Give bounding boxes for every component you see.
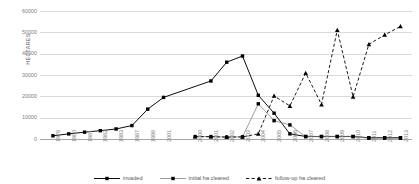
data-point-marker bbox=[241, 54, 244, 57]
data-point-marker bbox=[83, 130, 86, 133]
legend-item-follow-up-ha-cleared[interactable]: follow-up ha cleared bbox=[246, 175, 325, 182]
x-axis-tick-label: 2013 bbox=[403, 130, 409, 142]
x-axis-tick-label: 2001 bbox=[213, 130, 219, 142]
y-axis-tick-label: 10000 bbox=[3, 114, 37, 120]
data-point-marker bbox=[304, 135, 307, 138]
legend-item-initial-ha-cleared[interactable]: initial ha cleared bbox=[160, 175, 229, 182]
x-axis-tick-label: 2010 bbox=[355, 130, 361, 142]
x-axis-tick-label: 2004 bbox=[260, 130, 266, 142]
series-line bbox=[53, 56, 401, 138]
x-axis-tick-label: 2012 bbox=[387, 130, 393, 142]
chart-legend: invadedinitial ha clearedfollow-up ha cl… bbox=[0, 175, 419, 182]
data-point-marker bbox=[303, 71, 308, 75]
x-axis-tick-label: 2000 bbox=[197, 130, 203, 142]
data-point-marker bbox=[67, 132, 70, 135]
data-point-marker bbox=[335, 28, 340, 32]
chart-container: HECTARES 0100002000030000400005000060000… bbox=[0, 0, 419, 184]
y-axis-tick-label: 40000 bbox=[3, 50, 37, 56]
data-point-marker bbox=[257, 102, 260, 105]
data-point-marker bbox=[272, 94, 277, 98]
data-point-marker bbox=[319, 102, 324, 106]
y-axis-tick-label: 60000 bbox=[3, 8, 37, 14]
data-point-marker bbox=[272, 111, 275, 114]
x-axis-tick-label: 2008 bbox=[324, 130, 330, 142]
data-point-marker bbox=[399, 136, 402, 139]
data-point-marker bbox=[162, 96, 165, 99]
data-point-marker bbox=[351, 94, 356, 98]
y-axis-tick-label: 50000 bbox=[3, 29, 37, 35]
data-point-marker bbox=[105, 177, 108, 180]
data-point-marker bbox=[130, 124, 133, 127]
data-point-marker bbox=[398, 24, 403, 28]
x-axis-tick-label: 2003 bbox=[245, 130, 251, 142]
series-invaded bbox=[51, 54, 402, 139]
x-axis-tick-label: 1980 bbox=[71, 130, 77, 142]
legend-sample-initial-ha-cleared bbox=[160, 175, 186, 182]
legend-label: follow-up ha cleared bbox=[275, 175, 325, 182]
x-axis-tick-label: 2007 bbox=[308, 130, 314, 142]
x-axis-tick-label: 1983 bbox=[118, 130, 124, 142]
y-axis-tick-label: 0 bbox=[3, 136, 37, 142]
data-point-marker bbox=[146, 107, 149, 110]
x-axis-tick-label: 1978 bbox=[55, 130, 61, 142]
x-axis-tick-label: 1981 bbox=[87, 130, 93, 142]
legend-item-invaded[interactable]: invaded bbox=[94, 175, 143, 182]
x-axis-tick-label: 2011 bbox=[371, 130, 377, 142]
data-point-marker bbox=[288, 104, 293, 108]
x-axis-tick-label: 1987 bbox=[134, 130, 140, 142]
x-axis-tick-label: 1998 bbox=[150, 130, 156, 142]
x-axis-tick-label: 2009 bbox=[339, 130, 345, 142]
x-axis-tick-label: 2006 bbox=[292, 130, 298, 142]
y-axis-tick-label: 20000 bbox=[3, 93, 37, 99]
y-axis-tick-label: 30000 bbox=[3, 72, 37, 78]
data-point-marker bbox=[288, 123, 291, 126]
data-point-marker bbox=[367, 42, 372, 46]
x-axis-tick-label: 1982 bbox=[102, 130, 108, 142]
data-point-marker bbox=[225, 61, 228, 64]
legend-label: invaded bbox=[123, 175, 143, 182]
series-follow-up-ha-cleared bbox=[193, 24, 403, 139]
x-axis-tick-label: 2002 bbox=[229, 130, 235, 142]
legend-label: initial ha cleared bbox=[189, 175, 229, 182]
data-point-marker bbox=[320, 135, 323, 138]
legend-sample-follow-up-ha-cleared bbox=[246, 175, 272, 182]
data-point-marker bbox=[209, 79, 212, 82]
series-line bbox=[195, 26, 400, 137]
data-point-marker bbox=[382, 33, 387, 37]
plot-area bbox=[40, 11, 412, 139]
data-point-marker bbox=[272, 119, 275, 122]
series-layer bbox=[40, 11, 412, 139]
data-point-marker bbox=[171, 177, 174, 180]
x-axis-tick-label: 2005 bbox=[276, 130, 282, 142]
legend-sample-invaded bbox=[94, 175, 120, 182]
data-point-marker bbox=[383, 136, 386, 139]
x-axis-tick-label: 2001 bbox=[166, 130, 172, 142]
data-point-marker bbox=[257, 94, 260, 97]
